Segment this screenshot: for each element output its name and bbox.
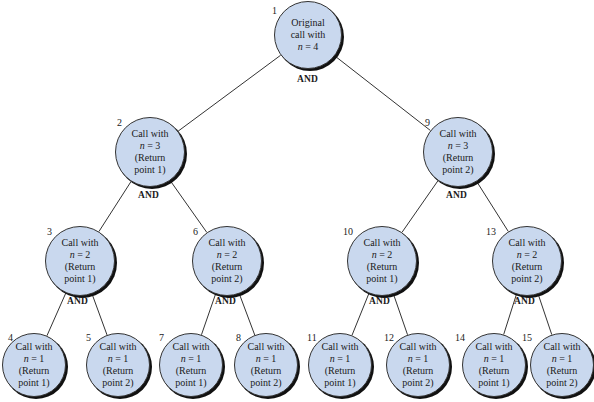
node-label-line: (Return bbox=[173, 365, 210, 377]
node-label-line: call with bbox=[291, 29, 326, 41]
node-number-7: 7 bbox=[159, 332, 164, 343]
node-label-line: Call with bbox=[322, 341, 359, 353]
node-label-line: Call with bbox=[544, 341, 581, 353]
node-label-line: n = 1 bbox=[16, 353, 53, 365]
node-label-line: point 1) bbox=[132, 164, 169, 176]
call-node-2: Call withn = 3(Returnpoint 1) bbox=[115, 117, 185, 187]
node-number-9: 9 bbox=[425, 117, 430, 128]
node-label-line: Call with bbox=[173, 341, 210, 353]
node-label-line: n = 1 bbox=[322, 353, 359, 365]
edge-3-5 bbox=[92, 294, 107, 335]
call-node-7: Call withn = 1(Returnpoint 1) bbox=[159, 333, 223, 397]
call-node-3: Call withn = 2(Returnpoint 1) bbox=[45, 226, 115, 296]
node-label-line: (Return bbox=[364, 261, 401, 273]
node-number-3: 3 bbox=[47, 226, 52, 237]
node-label-line: n = 1 bbox=[400, 353, 437, 365]
node-label-line: point 2) bbox=[209, 273, 246, 285]
edge-6-7 bbox=[201, 294, 215, 335]
node-label-line: point 1) bbox=[62, 273, 99, 285]
node-label-line: n = 4 bbox=[291, 41, 326, 53]
node-label-line: Call with bbox=[100, 341, 137, 353]
edge-9-10 bbox=[402, 181, 438, 233]
node-label-line: Original bbox=[291, 17, 326, 29]
node-label-line: point 1) bbox=[476, 377, 513, 389]
node-label-line: point 2) bbox=[248, 377, 285, 389]
node-label-line: Call with bbox=[248, 341, 285, 353]
node-label-line: (Return bbox=[209, 261, 246, 273]
node-label-line: n = 3 bbox=[132, 140, 169, 152]
node-label-line: Call with bbox=[209, 237, 246, 249]
node-number-1: 1 bbox=[272, 5, 277, 16]
node-label-line: (Return bbox=[132, 152, 169, 164]
node-label-line: point 2) bbox=[509, 273, 546, 285]
node-label-line: Call with bbox=[16, 341, 53, 353]
node-number-8: 8 bbox=[236, 332, 241, 343]
node-number-6: 6 bbox=[193, 226, 198, 237]
node-label-line: n = 2 bbox=[209, 249, 246, 261]
node-label-line: n = 2 bbox=[62, 249, 99, 261]
edge-9-13 bbox=[477, 182, 509, 232]
node-number-14: 14 bbox=[455, 332, 465, 343]
node-label-line: (Return bbox=[476, 365, 513, 377]
and-label-13: AND bbox=[514, 296, 535, 306]
node-number-10: 10 bbox=[343, 226, 353, 237]
node-number-2: 2 bbox=[117, 117, 122, 128]
and-label-9: AND bbox=[446, 190, 467, 200]
edge-10-12 bbox=[393, 294, 407, 335]
node-label-line: (Return bbox=[100, 365, 137, 377]
node-label-line: (Return bbox=[509, 261, 546, 273]
node-label-line: n = 1 bbox=[248, 353, 285, 365]
node-label-line: (Return bbox=[322, 365, 359, 377]
node-number-5: 5 bbox=[86, 332, 91, 343]
call-node-15: Call withn = 1(Returnpoint 2) bbox=[530, 333, 594, 397]
node-label-line: (Return bbox=[544, 365, 581, 377]
node-label-line: point 1) bbox=[16, 377, 53, 389]
node-label-line: (Return bbox=[16, 365, 53, 377]
edge-1-2 bbox=[178, 55, 281, 131]
node-label-line: point 1) bbox=[173, 377, 210, 389]
edge-2-3 bbox=[99, 181, 131, 231]
node-number-11: 11 bbox=[307, 332, 317, 343]
node-label-line: n = 2 bbox=[509, 249, 546, 261]
and-label-1: AND bbox=[297, 74, 318, 84]
node-label-line: point 1) bbox=[322, 377, 359, 389]
node-label-line: (Return bbox=[248, 365, 285, 377]
node-label-line: point 2) bbox=[100, 377, 137, 389]
node-number-4: 4 bbox=[8, 332, 13, 343]
node-label-line: (Return bbox=[62, 261, 99, 273]
and-label-3: AND bbox=[67, 296, 88, 306]
node-label-line: Call with bbox=[400, 341, 437, 353]
call-node-10: Call withn = 2(Returnpoint 1) bbox=[347, 226, 417, 296]
node-label-line: Call with bbox=[364, 237, 401, 249]
node-label-line: (Return bbox=[400, 365, 437, 377]
call-node-11: Call withn = 1(Returnpoint 1) bbox=[308, 333, 372, 397]
edge-2-6 bbox=[170, 181, 207, 233]
node-label-line: n = 1 bbox=[173, 353, 210, 365]
call-node-5: Call withn = 1(Returnpoint 2) bbox=[86, 333, 150, 397]
call-node-13: Call withn = 2(Returnpoint 2) bbox=[492, 226, 562, 296]
call-node-1: Originalcall withn = 4 bbox=[274, 1, 342, 69]
node-number-12: 12 bbox=[384, 332, 394, 343]
node-label-line: point 2) bbox=[544, 377, 581, 389]
edge-13-15 bbox=[538, 294, 552, 334]
call-node-12: Call withn = 1(Returnpoint 2) bbox=[386, 333, 450, 397]
edge-1-9 bbox=[335, 56, 431, 131]
node-label-line: n = 1 bbox=[476, 353, 513, 365]
edge-3-4 bbox=[47, 293, 66, 336]
node-label-line: (Return bbox=[440, 152, 477, 164]
node-label-line: Call with bbox=[509, 237, 546, 249]
node-label-line: n = 3 bbox=[440, 140, 477, 152]
call-node-8: Call withn = 1(Returnpoint 2) bbox=[234, 333, 298, 397]
edge-6-8 bbox=[239, 294, 254, 335]
and-label-6: AND bbox=[215, 296, 236, 306]
node-label-line: point 1) bbox=[364, 273, 401, 285]
node-number-15: 15 bbox=[522, 332, 532, 343]
call-node-14: Call withn = 1(Returnpoint 1) bbox=[462, 333, 526, 397]
node-label-line: n = 1 bbox=[544, 353, 581, 365]
node-label-line: Call with bbox=[476, 341, 513, 353]
call-node-9: Call withn = 3(Returnpoint 2) bbox=[423, 117, 493, 187]
node-label-line: n = 2 bbox=[364, 249, 401, 261]
node-label-line: Call with bbox=[62, 237, 99, 249]
edge-10-11 bbox=[352, 293, 369, 335]
and-label-2: AND bbox=[138, 190, 159, 200]
